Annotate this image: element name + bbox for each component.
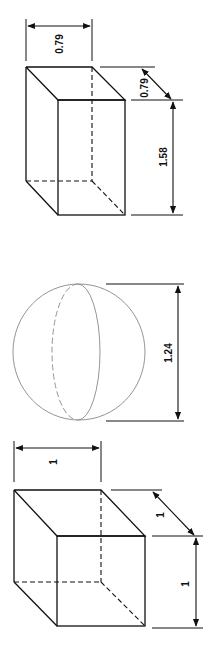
solids-diagram: 0.79 0.79 1.58 1.24 [0, 0, 220, 646]
prism-depth-label: 0.79 [139, 78, 150, 98]
sphere-outline [13, 284, 145, 420]
cube: 1 1 1 [14, 441, 203, 628]
prism-width-label: 0.79 [54, 34, 65, 54]
cube-hidden-bottom-diag [101, 582, 145, 626]
cube-height-label: 1 [180, 581, 191, 587]
cube-top-face [14, 490, 145, 536]
rectangular-prism: 0.79 0.79 1.58 [26, 19, 183, 215]
cube-width-label: 1 [48, 459, 59, 465]
prism-top-face [26, 67, 125, 100]
sphere-diameter-label: 1.24 [163, 343, 174, 363]
sphere-meridian-front [78, 284, 100, 420]
prism-height-label: 1.58 [158, 147, 169, 167]
sphere-meridian-back [52, 284, 78, 420]
prism-bottom-left-edge [26, 181, 58, 215]
cube-bottom-left-edge [14, 582, 57, 626]
prism-hidden-bottom-diag [92, 181, 125, 215]
sphere: 1.24 [13, 284, 184, 421]
cube-depth-label: 1 [155, 512, 166, 518]
